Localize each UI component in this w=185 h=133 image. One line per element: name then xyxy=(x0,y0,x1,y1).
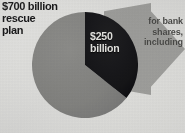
slice-label-line-2: billion xyxy=(90,42,120,54)
callout-line-2: shares, xyxy=(121,27,183,38)
headline-line-2: rescue xyxy=(2,13,58,25)
slice-label-250-billion: $250 billion xyxy=(90,30,120,54)
headline-line-3: plan xyxy=(2,25,58,37)
infographic-pie-chart: for bank shares, including xyxy=(0,0,185,133)
headline: $700 billion rescue plan xyxy=(2,1,58,36)
callout-text: for bank shares, including xyxy=(121,16,183,48)
slice-label-line-1: $250 xyxy=(90,30,120,42)
callout-line-1: for bank xyxy=(121,16,183,27)
callout-line-3: including xyxy=(121,37,183,48)
